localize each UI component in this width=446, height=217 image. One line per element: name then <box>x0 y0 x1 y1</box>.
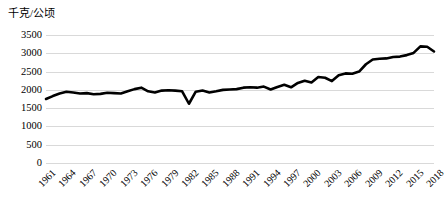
plot-area <box>46 35 434 163</box>
y-tick-label: 3500 <box>0 30 42 40</box>
x-tick-label: 1973 <box>113 167 139 193</box>
yield-line-chart: 千克/公顷 3500300025002000150010005000 19611… <box>0 0 446 217</box>
x-tick-label: 1994 <box>256 167 282 193</box>
x-tick-label: 2006 <box>338 167 364 193</box>
x-tick-label: 1970 <box>93 167 119 193</box>
x-tick-label: 2003 <box>318 167 344 193</box>
x-tick-label: 1976 <box>134 167 160 193</box>
x-tick-label: 2009 <box>358 167 384 193</box>
x-tick-label: 1964 <box>52 167 78 193</box>
x-tick-label: 1985 <box>195 167 221 193</box>
y-tick-label: 3000 <box>0 48 42 58</box>
x-tick-label: 2012 <box>379 167 405 193</box>
y-tick-label: 2000 <box>0 85 42 95</box>
x-tick-label: 1982 <box>175 167 201 193</box>
y-tick-label: 1000 <box>0 121 42 131</box>
series-line-yield <box>46 46 434 103</box>
y-tick-label: 0 <box>0 158 42 168</box>
y-tick-label: 500 <box>0 140 42 150</box>
x-tick-label: 1991 <box>236 167 262 193</box>
x-tick-label: 1979 <box>154 167 180 193</box>
x-tick-label: 1988 <box>215 167 241 193</box>
x-tick-label: 2015 <box>399 167 425 193</box>
x-axis-tick-labels: 1961196419671970197319761979198219851988… <box>46 163 434 217</box>
x-tick-label: 1967 <box>72 167 98 193</box>
series-line-layer <box>46 35 434 163</box>
x-tick-label: 1997 <box>277 167 303 193</box>
y-tick-label: 2500 <box>0 67 42 77</box>
x-tick-label: 2000 <box>297 167 323 193</box>
x-tick-label: 2018 <box>420 167 446 193</box>
y-tick-label: 1500 <box>0 103 42 113</box>
